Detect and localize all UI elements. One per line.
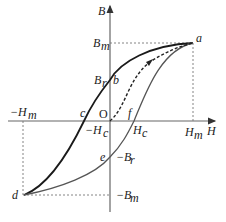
svg-text:m: m	[101, 39, 110, 53]
upper-branch-curve	[24, 43, 193, 195]
svg-text:r: r	[130, 153, 135, 167]
point-d-label: d	[12, 188, 19, 202]
label-Hm: H m	[184, 125, 203, 142]
label-Br: B r	[94, 73, 107, 90]
svg-text:−H: −H	[10, 105, 28, 119]
svg-text:m: m	[28, 108, 37, 122]
origin-label: O	[99, 107, 108, 121]
lower-branch-curve	[24, 43, 193, 195]
label-neg-Hc: −H c	[85, 123, 109, 140]
guide-lines	[23, 43, 193, 195]
h-axis-label: H	[206, 124, 217, 138]
hysteresis-diagram: B H O B m B r −B r −B m H m −H m H c −H …	[0, 0, 226, 222]
svg-text:−H: −H	[85, 123, 103, 137]
point-a-label: a	[196, 31, 202, 45]
label-neg-Hm: −H m	[10, 105, 37, 122]
label-Hc: H c	[132, 123, 148, 140]
svg-text:r: r	[102, 76, 107, 90]
svg-text:c: c	[103, 126, 109, 140]
point-f-label: f	[128, 106, 133, 120]
svg-text:m: m	[194, 128, 203, 142]
label-neg-Br: −B r	[116, 150, 135, 167]
label-neg-Bm: −B m	[116, 188, 139, 205]
svg-text:B: B	[93, 36, 101, 50]
point-e-label: e	[100, 150, 106, 164]
svg-text:B: B	[94, 73, 102, 87]
point-b-label: b	[113, 73, 119, 87]
point-c-label: c	[80, 106, 86, 120]
svg-text:m: m	[130, 191, 139, 205]
b-axis-label: B	[98, 4, 106, 18]
label-Bm: B m	[93, 36, 110, 53]
svg-text:c: c	[142, 126, 148, 140]
